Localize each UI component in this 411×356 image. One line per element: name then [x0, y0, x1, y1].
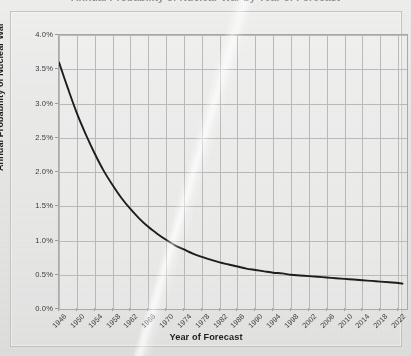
chart-title-text: Annual Probability of Nuclear War by Yea… — [71, 0, 340, 3]
x-tick-label: 1954 — [86, 312, 104, 330]
y-tick-label: 3.0% — [35, 98, 53, 107]
plot-area — [58, 34, 408, 310]
x-tick-label: 2014 — [354, 312, 372, 330]
x-axis-title: Year of Forecast — [11, 332, 401, 342]
x-tick-label: 1950 — [68, 312, 86, 330]
y-tick-label: 0.5% — [35, 269, 53, 278]
x-tick-label: 2002 — [300, 312, 318, 330]
gridline-horizontal — [59, 309, 407, 310]
y-tick-label: 0.0% — [35, 304, 53, 313]
y-tick-label: 1.5% — [35, 201, 53, 210]
x-tick-label: 1982 — [211, 312, 229, 330]
y-tick-label: 1.0% — [35, 235, 53, 244]
y-tick-label: 3.5% — [35, 64, 53, 73]
chart-title-cropped: Annual Probability of Nuclear War by Yea… — [0, 0, 411, 9]
nuclear-war-probability-curve — [59, 35, 407, 309]
x-tick-label: 1958 — [104, 312, 122, 330]
x-tick-label: 1978 — [193, 312, 211, 330]
x-tick-label: 2006 — [318, 312, 336, 330]
figure-frame: Annual Probability of Nuclear War Year o… — [10, 11, 402, 347]
x-tick-label: 1994 — [265, 312, 283, 330]
y-axis-title: Annual Probability of Nuclear War — [0, 23, 5, 172]
x-tick-label: 1946 — [50, 312, 68, 330]
x-tick-label: 1998 — [282, 312, 300, 330]
x-tick-label: 1970 — [157, 312, 175, 330]
curve-path — [59, 62, 403, 283]
x-tick-label: 1986 — [229, 312, 247, 330]
x-tick-label: 1962 — [122, 312, 140, 330]
x-tick-label: 2018 — [372, 312, 390, 330]
x-tick-label: 1966 — [140, 312, 158, 330]
y-tick-label: 2.0% — [35, 167, 53, 176]
x-tick-label: 1974 — [175, 312, 193, 330]
x-tick-label: 2010 — [336, 312, 354, 330]
y-tick-label: 2.5% — [35, 132, 53, 141]
x-tick-label: 1990 — [247, 312, 265, 330]
y-tick-label: 4.0% — [35, 30, 53, 39]
